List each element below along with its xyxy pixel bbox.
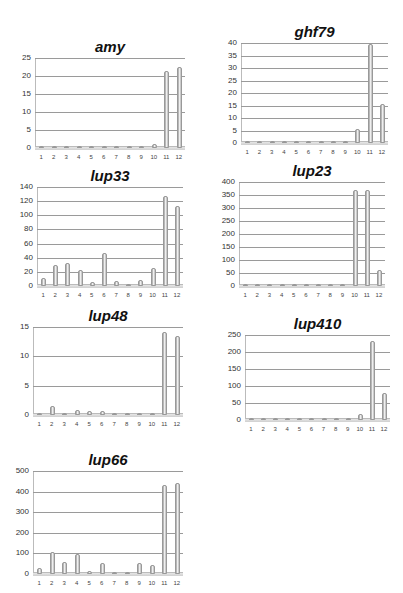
y-tick-label: 350: [211, 190, 235, 199]
x-tick-label: 6: [96, 421, 108, 427]
gridline: [241, 43, 388, 44]
bar: [152, 144, 157, 148]
bar: [340, 284, 345, 286]
bar: [87, 571, 92, 574]
bar: [261, 418, 266, 420]
x-tick-label: 8: [122, 292, 134, 298]
bar: [319, 141, 324, 143]
bar: [102, 253, 107, 286]
x-tick-label: 2: [49, 292, 61, 298]
bar: [370, 341, 375, 420]
axis-wall: [33, 471, 34, 574]
bar: [365, 190, 370, 286]
y-tick-label: 100: [5, 548, 29, 557]
bar: [243, 284, 248, 286]
y-tick-label: 20: [9, 267, 33, 276]
x-tick-label: 5: [293, 426, 305, 432]
bar: [89, 146, 94, 148]
x-tick-label: 1: [37, 292, 49, 298]
bar: [62, 562, 67, 574]
x-tick-label: 9: [342, 426, 354, 432]
x-tick-label: 1: [239, 292, 251, 298]
bar: [37, 413, 42, 415]
y-tick-label: 10: [5, 351, 29, 360]
gridline: [33, 492, 183, 493]
x-tick-label: 1: [33, 421, 45, 427]
bar: [75, 410, 80, 415]
bar: [273, 418, 278, 420]
bar: [75, 554, 80, 574]
gridline: [37, 244, 183, 245]
x-tick-label: 11: [158, 421, 170, 427]
bar: [102, 146, 107, 148]
bar: [175, 206, 180, 286]
bar: [126, 284, 131, 286]
bar: [125, 572, 130, 574]
x-tick-label: 10: [147, 292, 159, 298]
bar: [382, 393, 387, 420]
chart-floor: [33, 413, 183, 417]
bar: [78, 270, 83, 286]
gridline: [35, 130, 185, 131]
gridline: [241, 81, 388, 82]
chart-lup23: lup2305010015020025030035040012345678910…: [205, 160, 395, 308]
plot-area: [33, 327, 183, 415]
bar: [331, 141, 336, 143]
chart-lup66: lup660100200300400500123456789101112: [5, 450, 193, 593]
y-tick-label: 100: [211, 255, 235, 264]
y-tick-label: 140: [9, 182, 33, 191]
x-tick-label: 3: [263, 292, 275, 298]
bar: [112, 413, 117, 415]
x-tick-label: 12: [171, 421, 183, 427]
gridline: [245, 352, 390, 353]
chart-floor: [35, 146, 185, 150]
chart-floor: [37, 284, 183, 288]
bar: [163, 196, 168, 286]
x-tick-label: 9: [133, 580, 145, 586]
gridline: [35, 58, 185, 59]
bar: [353, 190, 358, 286]
gridline: [37, 258, 183, 259]
x-tick-label: 8: [324, 292, 336, 298]
plot-area: [241, 43, 388, 143]
x-tick-label: 11: [159, 292, 171, 298]
x-tick-label: 1: [245, 426, 257, 432]
x-tick-label: 2: [253, 149, 265, 155]
bar: [139, 146, 144, 148]
y-tick-label: 0: [211, 281, 235, 290]
x-tick-label: 7: [318, 426, 330, 432]
y-tick-label: 10: [7, 107, 31, 116]
bar: [151, 268, 156, 286]
bar: [294, 141, 299, 143]
bar: [112, 572, 117, 574]
gridline: [33, 327, 183, 328]
plot-area: [35, 58, 185, 148]
y-tick-label: 20: [213, 88, 237, 97]
gridline: [241, 118, 388, 119]
x-tick-label: 2: [46, 421, 58, 427]
y-tick-label: 25: [213, 76, 237, 85]
y-tick-label: 5: [213, 126, 237, 135]
x-tick-label: 10: [349, 292, 361, 298]
x-tick-label: 9: [133, 421, 145, 427]
gridline: [35, 94, 185, 95]
bar: [39, 146, 44, 148]
bar: [164, 71, 169, 148]
bar: [322, 418, 327, 420]
bar: [328, 284, 333, 286]
chart-title: lup66: [33, 451, 183, 468]
y-tick-label: 250: [217, 330, 241, 339]
x-tick-label: 6: [305, 426, 317, 432]
x-tick-label: 5: [86, 292, 98, 298]
x-tick-label: 11: [361, 292, 373, 298]
chart-amy: amy0510152025123456789101112: [5, 18, 195, 170]
x-tick-label: 10: [146, 580, 158, 586]
bar: [137, 413, 142, 415]
y-tick-label: 60: [9, 239, 33, 248]
plot-area: [239, 182, 385, 286]
x-tick-label: 11: [366, 426, 378, 432]
gridline: [37, 215, 183, 216]
x-tick-label: 12: [171, 292, 183, 298]
bar: [64, 146, 69, 148]
y-tick-label: 200: [217, 347, 241, 356]
